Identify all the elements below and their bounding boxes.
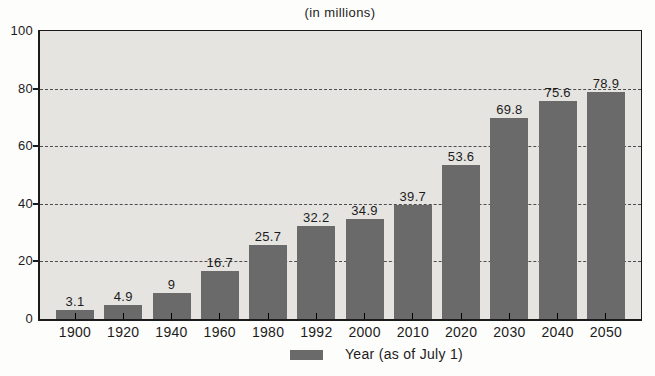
y-axis-tick xyxy=(33,260,38,262)
y-axis-tick xyxy=(33,203,38,205)
x-axis-tick xyxy=(123,313,124,319)
x-axis: 1900192019401960198019922000201020202030… xyxy=(40,324,641,340)
chart-title: (in millions) xyxy=(38,5,642,20)
bar-group: 16.7 xyxy=(201,255,239,319)
bar-group: 69.8 xyxy=(490,102,528,319)
bar xyxy=(490,118,528,319)
y-axis-tick xyxy=(33,88,38,90)
x-axis-tick xyxy=(557,313,558,319)
bar-group: 4.9 xyxy=(104,289,142,319)
x-axis-tick-label: 2010 xyxy=(394,324,432,340)
bar xyxy=(539,101,577,319)
x-axis-tick xyxy=(219,313,220,319)
x-axis-tick-label: 2020 xyxy=(442,324,480,340)
y-axis-tick-label: 20 xyxy=(0,253,33,269)
bar-value-label: 9 xyxy=(168,277,176,292)
x-axis-tick xyxy=(364,313,365,319)
y-axis-tick-label: 100 xyxy=(0,23,33,39)
bar-value-label: 78.9 xyxy=(593,76,620,91)
bar-group: 9 xyxy=(153,277,191,319)
y-axis-tick-label: 80 xyxy=(0,81,33,97)
x-axis-tick xyxy=(316,313,317,319)
bars-layer: 3.14.9916.725.732.234.939.753.669.875.67… xyxy=(40,31,641,319)
bar xyxy=(201,271,239,319)
bar-value-label: 69.8 xyxy=(496,102,523,117)
x-axis-tick xyxy=(171,313,172,319)
bar xyxy=(587,92,625,319)
chart-page: (in millions) 3.14.9916.725.732.234.939.… xyxy=(0,0,655,376)
x-axis-tick-label: 1992 xyxy=(297,324,335,340)
bar-group: 78.9 xyxy=(587,76,625,319)
y-axis-tick xyxy=(33,145,38,147)
bar-value-label: 16.7 xyxy=(207,255,234,270)
x-axis-tick-label: 1940 xyxy=(153,324,191,340)
bar xyxy=(249,245,287,319)
bar-group: 3.1 xyxy=(56,294,94,319)
x-axis-tick-label: 1920 xyxy=(104,324,142,340)
bar-group: 32.2 xyxy=(297,210,335,319)
bar-value-label: 39.7 xyxy=(400,189,427,204)
x-axis-tick xyxy=(605,313,606,319)
bar xyxy=(442,165,480,319)
bar xyxy=(297,226,335,319)
x-axis-tick xyxy=(461,313,462,319)
bar-group: 25.7 xyxy=(249,229,287,319)
plot-area: 3.14.9916.725.732.234.939.753.669.875.67… xyxy=(38,30,642,321)
x-axis-tick-label: 1900 xyxy=(56,324,94,340)
bar-value-label: 25.7 xyxy=(255,229,282,244)
bar-group: 53.6 xyxy=(442,149,480,319)
x-axis-tick-label: 2030 xyxy=(490,324,528,340)
legend-label: Year (as of July 1) xyxy=(345,346,463,362)
x-axis-tick-label: 2000 xyxy=(346,324,384,340)
y-axis-tick-label: 40 xyxy=(0,196,33,212)
legend: Year (as of July 1) xyxy=(290,346,463,362)
bar-group: 75.6 xyxy=(539,85,577,319)
x-axis-tick-label: 2050 xyxy=(587,324,625,340)
bar-value-label: 34.9 xyxy=(351,203,378,218)
y-axis-tick-label: 0 xyxy=(0,311,33,327)
x-axis-tick xyxy=(268,313,269,319)
bar-value-label: 4.9 xyxy=(114,289,133,304)
bar-value-label: 3.1 xyxy=(66,294,85,309)
bar-value-label: 32.2 xyxy=(303,210,330,225)
x-axis-tick xyxy=(509,313,510,319)
y-axis-tick-label: 60 xyxy=(0,138,33,154)
legend-swatch-icon xyxy=(290,350,323,360)
bar-value-label: 75.6 xyxy=(544,85,571,100)
x-axis-tick xyxy=(75,313,76,319)
x-axis-tick-label: 2040 xyxy=(539,324,577,340)
x-axis-tick xyxy=(412,313,413,319)
bar-group: 34.9 xyxy=(346,203,384,320)
bar-value-label: 53.6 xyxy=(448,149,475,164)
x-axis-tick-label: 1960 xyxy=(201,324,239,340)
bar xyxy=(346,219,384,320)
x-axis-tick-label: 1980 xyxy=(249,324,287,340)
bar xyxy=(394,205,432,319)
bar-group: 39.7 xyxy=(394,189,432,319)
